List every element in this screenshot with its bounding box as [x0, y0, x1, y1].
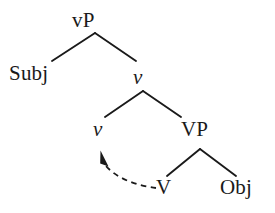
node-label-vp-low: VP — [181, 119, 208, 140]
branch-vp-to-v — [95, 33, 136, 61]
movement-arrow-path — [106, 166, 157, 189]
movement-arrowhead-icon — [100, 151, 108, 167]
branch-vp-to-verb — [167, 149, 200, 176]
syntax-tree-diagram: vP Subj v v VP V Obj — [0, 0, 275, 213]
head-movement-arrow — [100, 151, 156, 189]
branch-vp-to-subj — [52, 33, 95, 61]
branch-group-v-mid — [105, 91, 181, 117]
node-label-little-v-low: v — [93, 119, 103, 140]
branch-v-to-little-v — [105, 91, 143, 117]
node-label-vp: vP — [72, 10, 95, 31]
branch-group-vp-low — [167, 149, 236, 176]
branch-vp-to-obj — [200, 149, 236, 176]
node-label-little-v-mid: v — [133, 67, 143, 88]
branch-group-vp — [52, 33, 136, 61]
node-label-vp-v: v — [72, 8, 83, 32]
node-label-vp-p: P — [83, 8, 95, 32]
node-label-verb-head: V — [156, 177, 171, 198]
node-label-obj: Obj — [220, 177, 252, 198]
branch-v-to-vp — [143, 91, 181, 117]
node-label-subj: Subj — [9, 63, 48, 84]
